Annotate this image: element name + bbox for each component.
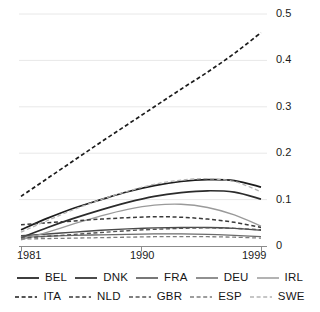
series-line-esp	[21, 237, 261, 239]
legend-item-esp[interactable]: ESP	[190, 291, 242, 303]
legend-line-icon	[257, 273, 279, 283]
legend-item-fra[interactable]: FRA	[136, 272, 188, 284]
legend-line-icon	[129, 292, 151, 302]
y-tick-label: 0.1	[276, 194, 291, 205]
y-tick-label: 0.2	[276, 147, 291, 158]
legend-label: BEL	[45, 272, 67, 284]
legend-line-icon	[15, 292, 37, 302]
legend-label: ITA	[43, 291, 61, 303]
chart-legend: BELDNKFRADEUIRLITANLDGBRESPSWE	[0, 268, 320, 306]
legend-label: ESP	[218, 291, 242, 303]
legend-label: GBR	[157, 291, 183, 303]
legend-line-icon	[17, 273, 39, 283]
legend-label: DNK	[103, 272, 128, 284]
series-lines	[21, 33, 261, 240]
legend-item-ita[interactable]: ITA	[15, 291, 61, 303]
legend-item-deu[interactable]: DEU	[196, 272, 249, 284]
legend-item-dnk[interactable]: DNK	[75, 272, 128, 284]
legend-item-bel[interactable]: BEL	[17, 272, 67, 284]
x-tick-label: 1990	[130, 250, 154, 261]
chart-figure: 00.10.20.30.40.5 198119901999 BELDNKFRAD…	[0, 0, 320, 312]
legend-item-nld[interactable]: NLD	[69, 291, 121, 303]
legend-label: FRA	[164, 272, 188, 284]
legend-label: DEU	[224, 272, 249, 284]
legend-line-icon	[69, 292, 91, 302]
legend-label: NLD	[97, 291, 121, 303]
legend-label: SWE	[278, 291, 305, 303]
legend-line-icon	[196, 273, 218, 283]
y-tick-label: 0.5	[276, 8, 291, 19]
legend-label: IRL	[285, 272, 304, 284]
series-line-ita	[21, 33, 261, 197]
y-tick-label: 0	[276, 240, 282, 251]
x-tick-label: 1981	[17, 250, 41, 261]
legend-row: ITANLDGBRESPSWE	[0, 287, 320, 306]
legend-line-icon	[190, 292, 212, 302]
y-tick-label: 0.3	[276, 101, 291, 112]
y-tick-label: 0.4	[276, 54, 291, 65]
plot-area	[19, 14, 267, 246]
x-tick-label: 1999	[242, 250, 266, 261]
series-line-nld	[21, 217, 261, 228]
legend-line-icon	[136, 273, 158, 283]
legend-line-icon	[75, 273, 97, 283]
legend-line-icon	[250, 292, 272, 302]
plot-svg	[19, 14, 267, 246]
legend-row: BELDNKFRADEUIRL	[0, 268, 320, 287]
legend-item-irl[interactable]: IRL	[257, 272, 304, 284]
legend-item-swe[interactable]: SWE	[250, 291, 305, 303]
legend-item-gbr[interactable]: GBR	[129, 291, 183, 303]
